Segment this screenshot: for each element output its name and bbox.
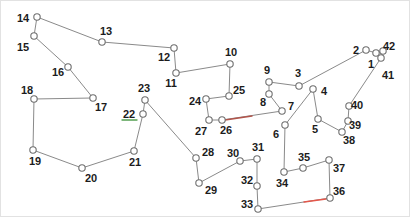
- node-label-12: 12: [158, 51, 170, 63]
- edge-16-17: [68, 67, 93, 98]
- node-37[interactable]: [326, 157, 332, 163]
- node-label-20: 20: [85, 172, 97, 184]
- node-label-24: 24: [189, 95, 202, 107]
- node-41[interactable]: [378, 55, 384, 61]
- edge-17-18: [34, 98, 93, 99]
- node-label-17: 17: [95, 101, 107, 113]
- node-13[interactable]: [99, 39, 105, 45]
- node-label-40: 40: [351, 99, 363, 111]
- node-label-42: 42: [383, 40, 395, 52]
- node-label-10: 10: [225, 46, 237, 58]
- node-label-5: 5: [312, 123, 318, 135]
- node-label-23: 23: [138, 82, 150, 94]
- node-8[interactable]: [266, 91, 272, 97]
- node-34[interactable]: [281, 169, 287, 175]
- node-label-1: 1: [368, 58, 374, 70]
- node-18[interactable]: [31, 96, 37, 102]
- edge-3-9: [269, 82, 299, 86]
- edge-23-28: [145, 100, 196, 158]
- node-22[interactable]: [140, 111, 146, 117]
- edge-12-13: [102, 42, 174, 48]
- node-23[interactable]: [142, 97, 148, 103]
- edge-20-21: [82, 151, 134, 168]
- node-label-30: 30: [227, 147, 239, 159]
- node-3[interactable]: [296, 83, 302, 89]
- node-25[interactable]: [226, 93, 232, 99]
- node-label-3: 3: [295, 67, 301, 79]
- tour-graph-svg: 1234567891011121314151617181920212223242…: [1, 1, 410, 217]
- node-label-31: 31: [252, 141, 264, 153]
- node-label-19: 19: [29, 155, 41, 167]
- node-label-35: 35: [298, 151, 310, 163]
- node-label-9: 9: [264, 64, 270, 76]
- node-15[interactable]: [31, 33, 37, 39]
- node-35[interactable]: [300, 165, 306, 171]
- node-12[interactable]: [171, 45, 177, 51]
- node-20[interactable]: [79, 165, 85, 171]
- node-label-16: 16: [52, 66, 64, 78]
- node-label-18: 18: [21, 84, 33, 96]
- node-9[interactable]: [266, 79, 272, 85]
- node-31[interactable]: [254, 156, 260, 162]
- edge-13-14: [37, 17, 102, 42]
- edge-34-6: [284, 125, 285, 172]
- node-label-28: 28: [202, 146, 214, 158]
- node-label-7: 7: [288, 100, 294, 112]
- red-segment-on-edge-26-7: [225, 116, 252, 120]
- node-21[interactable]: [131, 148, 137, 154]
- node-1[interactable]: [373, 50, 379, 56]
- node-33[interactable]: [255, 206, 261, 212]
- node-2[interactable]: [363, 47, 369, 53]
- node-label-26: 26: [220, 124, 232, 136]
- node-7[interactable]: [279, 108, 285, 114]
- edge-28-29: [196, 158, 199, 183]
- node-10[interactable]: [227, 61, 233, 67]
- node-28[interactable]: [193, 155, 199, 161]
- node-label-8: 8: [260, 96, 266, 108]
- edge-18-19: [33, 99, 34, 150]
- node-label-21: 21: [129, 156, 141, 168]
- edge-36-37: [329, 160, 330, 198]
- node-6[interactable]: [282, 122, 288, 128]
- node-label-13: 13: [100, 25, 112, 37]
- node-5[interactable]: [315, 116, 321, 122]
- edge-29-30: [199, 161, 240, 183]
- node-label-15: 15: [17, 41, 29, 53]
- node-24[interactable]: [203, 96, 209, 102]
- node-label-32: 32: [241, 174, 253, 186]
- node-27[interactable]: [206, 117, 212, 123]
- node-label-41: 41: [382, 69, 394, 81]
- node-label-2: 2: [353, 44, 359, 56]
- node-label-25: 25: [233, 84, 245, 96]
- red-segment-on-edge-33-36: [304, 199, 326, 202]
- edge-5-38: [318, 119, 342, 132]
- node-label-22: 22: [123, 108, 135, 120]
- node-label-14: 14: [17, 12, 30, 24]
- node-label-33: 33: [241, 198, 253, 210]
- tour-graph-canvas: 1234567891011121314151617181920212223242…: [0, 0, 410, 217]
- node-label-39: 39: [349, 119, 361, 131]
- node-label-38: 38: [343, 134, 355, 146]
- node-label-29: 29: [205, 184, 217, 196]
- node-29[interactable]: [196, 180, 202, 186]
- node-16[interactable]: [65, 64, 71, 70]
- edge-10-11: [176, 64, 230, 73]
- edge-25-10: [229, 64, 230, 96]
- node-26[interactable]: [219, 117, 225, 123]
- node-label-11: 11: [165, 77, 177, 89]
- edge-11-12: [174, 48, 176, 73]
- edge-4-5: [313, 89, 318, 119]
- node-label-36: 36: [333, 185, 345, 197]
- node-label-34: 34: [276, 177, 289, 189]
- node-14[interactable]: [34, 14, 40, 20]
- node-label-6: 6: [273, 128, 279, 140]
- node-19[interactable]: [30, 147, 36, 153]
- node-label-37: 37: [333, 162, 345, 174]
- node-32[interactable]: [254, 183, 260, 189]
- node-label-27: 27: [195, 125, 207, 137]
- node-11[interactable]: [173, 70, 179, 76]
- node-label-4: 4: [321, 85, 328, 97]
- edge-15-16: [34, 36, 68, 67]
- node-4[interactable]: [310, 86, 316, 92]
